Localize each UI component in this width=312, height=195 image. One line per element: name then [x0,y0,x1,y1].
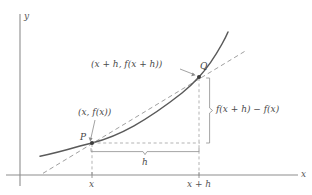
leader-arrow-coord-p [89,137,93,141]
coordinate-label-p: (x, f(x)) [78,108,111,117]
leader-line-coord-q [180,69,194,75]
y-axis-label: y [24,12,29,21]
point-label-p: P [80,133,86,142]
horizontal-brace-h [91,149,199,155]
tick-label-x: x [89,180,94,189]
point-label-q: Q [200,62,207,71]
point-q-marker [197,75,201,79]
coordinate-label-q: (x + h, f(x + h)) [91,60,162,69]
diagram-canvas [0,0,312,195]
vertical-brace-rise [207,78,213,143]
leader-arrow-coord-q [191,72,195,76]
tick-label-x-plus-h: x + h [187,180,211,189]
calculus-secant-diagram: y x x x + h P Q (x, f(x)) (x + h, f(x + … [0,0,312,195]
point-p-marker [90,141,94,145]
brace-label-rise: f(x + h) − f(x) [216,105,279,114]
leader-line-coord-p [91,120,96,140]
x-axis-label: x [301,170,306,179]
brace-label-h: h [142,158,148,167]
function-curve [40,32,228,156]
